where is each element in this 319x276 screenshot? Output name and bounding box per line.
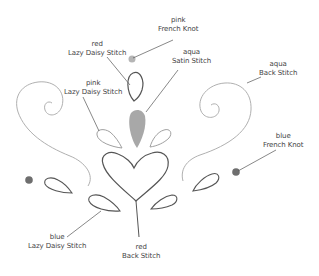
label-color: pink xyxy=(64,79,122,88)
label-stitch: Back Stitch xyxy=(259,69,297,78)
label-color: red xyxy=(68,40,126,49)
label-stitch: Back Stitch xyxy=(122,252,160,261)
label-stitch: French Knot xyxy=(158,25,198,34)
label-color: blue xyxy=(28,233,86,242)
label-color: blue xyxy=(263,132,303,141)
blue-french-knot-dot-left xyxy=(25,176,33,184)
label-stitch: Lazy Daisy Stitch xyxy=(28,242,86,251)
label-red-lazy-daisy: red Lazy Daisy Stitch xyxy=(68,40,126,58)
label-blue-lazy-daisy: blue Lazy Daisy Stitch xyxy=(28,233,86,251)
label-pink-french-knot: pink French Knot xyxy=(158,16,198,34)
leader-blue-french-knot xyxy=(238,150,276,171)
leader-pink-french-knot xyxy=(133,40,173,58)
leader-aqua-satin xyxy=(146,70,178,112)
pink-lazy-daisy-right xyxy=(150,130,171,147)
label-aqua-satin: aqua Satin Stitch xyxy=(172,48,211,66)
red-lazy-daisy-petal xyxy=(128,72,143,101)
label-color: aqua xyxy=(259,60,297,69)
blue-lazy-daisy-far-right xyxy=(193,174,219,191)
leader-pink-lazy-daisy xyxy=(83,97,99,131)
pink-lazy-daisy-left xyxy=(97,130,122,148)
label-stitch: French Knot xyxy=(263,141,303,150)
blue-lazy-daisy-inner-left xyxy=(89,195,120,211)
label-stitch: Lazy Daisy Stitch xyxy=(64,88,122,97)
label-stitch: Lazy Daisy Stitch xyxy=(68,49,126,58)
blue-french-knot-dot-right xyxy=(232,168,240,176)
label-color: aqua xyxy=(172,48,211,57)
label-color: pink xyxy=(158,16,198,25)
blue-lazy-daisy-inner-right xyxy=(151,195,177,209)
label-red-back-stitch: red Back Stitch xyxy=(122,243,160,261)
label-color: red xyxy=(122,243,160,252)
heart-back-stitch xyxy=(102,152,168,201)
label-blue-french-knot: blue French Knot xyxy=(263,132,303,150)
label-stitch: Satin Stitch xyxy=(172,57,211,66)
aqua-satin-stitch-fill xyxy=(129,110,145,148)
blue-lazy-daisy-far-left xyxy=(45,178,72,193)
pink-french-knot-dot xyxy=(129,56,136,63)
right-swirl-back-stitch xyxy=(182,83,251,181)
left-swirl-back-stitch xyxy=(17,82,91,186)
label-pink-lazy-daisy: pink Lazy Daisy Stitch xyxy=(64,79,122,97)
label-aqua-back-stitch: aqua Back Stitch xyxy=(259,60,297,78)
stem-back-stitch xyxy=(136,201,139,237)
